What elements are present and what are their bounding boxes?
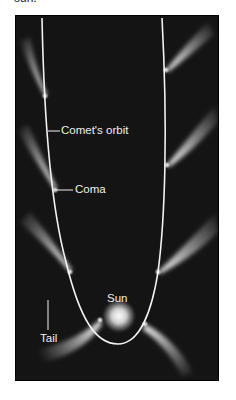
comet-orbit-path xyxy=(42,18,165,344)
coma-label: Coma xyxy=(75,184,106,196)
tail-label: Tail xyxy=(40,333,57,345)
comet-heads xyxy=(42,67,171,328)
comet-orbit-illustration xyxy=(0,0,236,400)
sun-label: Sun xyxy=(107,293,127,305)
leader-lines xyxy=(48,131,73,330)
orbit-label: Comet's orbit xyxy=(61,125,128,137)
